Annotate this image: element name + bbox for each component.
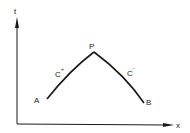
- point-a-label: A: [34, 96, 40, 105]
- point-b-label: B: [146, 98, 151, 107]
- x-axis: [17, 124, 168, 125]
- point-p-label: P: [89, 42, 94, 51]
- t-axis-label: t: [14, 7, 17, 16]
- characteristics-diagram: t x A P B C + C -: [0, 0, 190, 133]
- x-axis-label: x: [176, 121, 180, 130]
- diagram-svg: t x A P B C + C -: [0, 0, 190, 133]
- t-axis-arrow-icon: [15, 17, 19, 28]
- c-minus-superscript: -: [133, 65, 135, 71]
- curve-c-minus: [94, 52, 144, 103]
- x-axis-arrow-icon: [163, 123, 174, 127]
- c-plus-superscript: +: [61, 66, 64, 72]
